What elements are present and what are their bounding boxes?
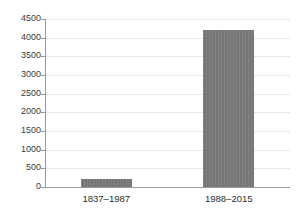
- y-axis-tick-label: 1000: [5, 145, 41, 154]
- x-axis-category-label: 1837–1987: [45, 194, 168, 204]
- bar[interactable]: [81, 179, 132, 187]
- x-axis-category-label: 1988–2015: [168, 194, 291, 204]
- bars-container: [45, 19, 290, 187]
- y-axis-tick-label: 4000: [5, 33, 41, 42]
- x-axis-line: [45, 187, 290, 188]
- bar-chart: 050010001500200025003000350040004500 183…: [0, 0, 300, 216]
- y-axis-tick-label: 2500: [5, 89, 41, 98]
- y-axis-tick-label: 500: [5, 163, 41, 172]
- y-axis-tick-label: 1500: [5, 126, 41, 135]
- y-axis-tick-label: 3500: [5, 51, 41, 60]
- bar[interactable]: [203, 30, 254, 187]
- y-axis-tick-label: 2000: [5, 107, 41, 116]
- y-axis-tick-label: 3000: [5, 70, 41, 79]
- y-axis-tick-label: 0: [5, 182, 41, 191]
- y-axis-tick-label: 4500: [5, 14, 41, 23]
